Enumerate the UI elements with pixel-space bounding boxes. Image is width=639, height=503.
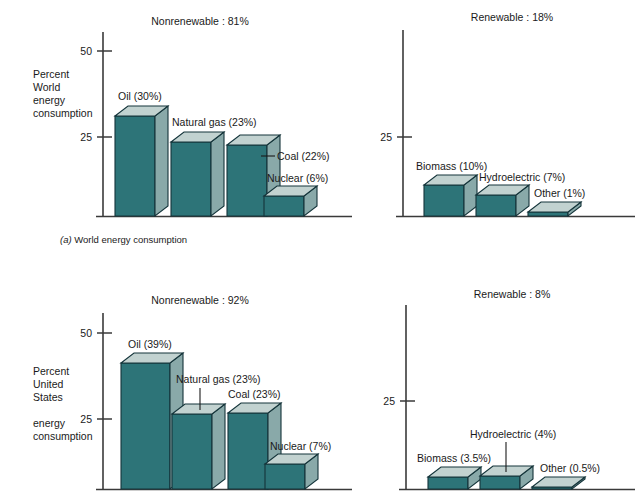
y-axis-title-line-1: Percent: [33, 68, 69, 80]
y-axis-title-line-5: consumption: [33, 430, 93, 442]
bar-other: [532, 477, 585, 489]
bar-label-coal: Coal (22%): [277, 150, 330, 162]
bar-natural-gas-side: [212, 404, 225, 489]
bar-label-natural-gas: Natural gas (23%): [172, 116, 257, 128]
bar-oil: [115, 106, 168, 216]
bar-nuclear-front: [264, 196, 304, 216]
y-axis-title-line-3: States: [33, 391, 63, 403]
y-axis-title: Percent World energy consumption: [33, 68, 93, 119]
y-axis-title-line-4: energy: [33, 417, 66, 429]
chart-title: Nonrenewable : 81%: [151, 15, 248, 27]
bar-label-other: Other (1%): [534, 187, 585, 199]
bar-label-hydroelectric: Hydroelectric (7%): [479, 171, 565, 183]
bar-biomass-front: [424, 185, 464, 216]
bar-natural-gas: [172, 404, 225, 489]
bar-label-coal: Coal (23%): [228, 388, 281, 400]
bar-label-hydroelectric: Hydroelectric (4%): [470, 428, 556, 440]
bar-label-nuclear: Nuclear (6%): [267, 172, 328, 184]
chart-title: Renewable : 8%: [474, 288, 550, 300]
bar-label-natural-gas: Natural gas (23%): [176, 373, 261, 385]
panel-a-caption-marker: (a): [60, 234, 72, 245]
y-tick-label-25: 25: [380, 131, 392, 143]
y-tick-label-50: 50: [80, 327, 92, 339]
bar-label-oil: Oil (30%): [118, 90, 162, 102]
bar-oil-front: [121, 363, 170, 489]
chart-title: Nonrenewable : 92%: [151, 294, 248, 306]
panel-a-caption: (a) World energy consumption: [60, 234, 187, 245]
bar-natural-gas-front: [171, 142, 211, 216]
bar-other-front: [528, 212, 568, 216]
bar-biomass: [424, 175, 477, 216]
y-axis-title-line-2: World: [33, 81, 60, 93]
bar-hydroelectric: [476, 185, 529, 216]
y-axis-title-line-1: Percent: [33, 365, 69, 377]
bar-label-biomass: Biomass (10%): [416, 160, 487, 172]
bar-coal-front: [228, 413, 268, 489]
bar-oil-front: [115, 116, 155, 216]
y-axis-title-line-4: consumption: [33, 107, 93, 119]
bar-other: [528, 202, 581, 216]
bar-natural-gas-side: [211, 132, 224, 216]
bar-biomass-front: [428, 477, 468, 489]
bar-nuclear: [265, 454, 318, 489]
chart-title: Renewable : 18%: [471, 11, 553, 23]
panel-a-caption-text: World energy consumption: [72, 234, 187, 245]
chart-world-nonrenewable: Nonrenewable : 81% 50 25 Percent World e…: [33, 15, 352, 217]
bar-natural-gas: [171, 132, 224, 216]
y-axis-title: Percent United States energy consumption: [33, 365, 93, 442]
y-tick-label-25: 25: [383, 395, 395, 407]
bar-label-biomass: Biomass (3.5%): [417, 452, 491, 464]
energy-consumption-figure: Nonrenewable : 81% 50 25 Percent World e…: [0, 0, 639, 503]
bar-label-oil: Oil (39%): [128, 338, 172, 350]
bar-nuclear-front: [265, 464, 305, 489]
chart-us-nonrenewable: Nonrenewable : 92% 50 25 Percent United …: [33, 294, 352, 490]
y-axis-title-line-2: United: [33, 378, 64, 390]
chart-world-renewable: Renewable : 18% 25 Biomass (10%) Hydroel…: [380, 11, 635, 217]
y-tick-label-25: 25: [80, 131, 92, 143]
chart-us-renewable: Renewable : 8% 25 Biomass (3.5%) Hydroel…: [383, 288, 635, 490]
y-tick-label-25: 25: [80, 413, 92, 425]
bar-natural-gas-front: [172, 414, 212, 489]
bar-hydroelectric-front: [476, 195, 516, 216]
bar-biomass: [428, 467, 481, 489]
bar-hydroelectric-front: [480, 476, 520, 489]
y-axis-title-line-3: energy: [33, 94, 66, 106]
bar-nuclear: [264, 186, 317, 216]
bar-oil-side: [155, 106, 168, 216]
y-tick-label-50: 50: [80, 45, 92, 57]
bar-label-other: Other (0.5%): [540, 462, 600, 474]
bar-label-nuclear: Nuclear (7%): [270, 440, 331, 452]
